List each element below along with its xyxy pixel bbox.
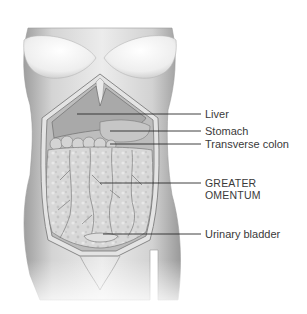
label-greater-omentum-line1: GREATER	[205, 177, 256, 189]
anatomy-illustration	[0, 0, 307, 314]
label-greater-omentum-line2: OMENTUM	[205, 189, 261, 201]
label-urinary-bladder: Urinary bladder	[205, 228, 280, 240]
label-liver: Liver	[205, 108, 229, 120]
label-stomach: Stomach	[205, 125, 248, 137]
label-transverse-colon: Transverse colon	[205, 138, 289, 150]
